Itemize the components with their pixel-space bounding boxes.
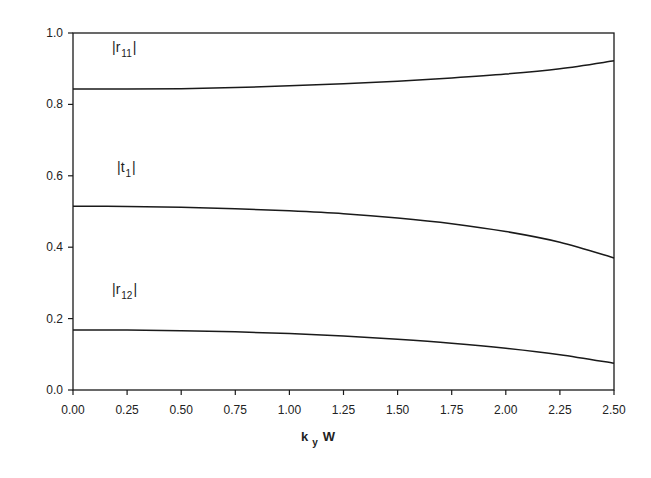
y-axis: 0.00.20.40.60.81.0	[46, 26, 73, 397]
curve-r11	[73, 61, 614, 89]
x-tick-label: 2.25	[548, 403, 572, 417]
x-tick-label: 1.50	[386, 403, 410, 417]
y-tick-label: 0.0	[46, 383, 63, 397]
x-tick-label: 2.50	[602, 403, 626, 417]
curve-label-t1: |t1|	[117, 159, 136, 179]
x-tick-label: 0.75	[224, 403, 248, 417]
x-tick-label: 1.25	[332, 403, 356, 417]
curve-t1	[73, 206, 614, 258]
x-tick-label: 2.00	[494, 403, 518, 417]
y-tick-label: 0.2	[46, 312, 63, 326]
y-tick-label: 0.4	[46, 240, 63, 254]
curve-label-r11: |r11|	[112, 39, 136, 59]
x-tick-label: 0.25	[115, 403, 139, 417]
x-tick-label: 1.00	[278, 403, 302, 417]
x-tick-label: 1.75	[440, 403, 464, 417]
y-tick-label: 0.8	[46, 97, 63, 111]
x-tick-label: 0.00	[61, 403, 85, 417]
data-curves	[73, 61, 614, 363]
x-tick-label: 0.50	[170, 403, 194, 417]
y-tick-label: 1.0	[46, 26, 63, 40]
curve-r12	[73, 330, 614, 363]
curve-labels: |r11||t1||r12|	[112, 39, 137, 301]
curve-label-r12: |r12|	[112, 281, 137, 301]
line-chart: 0.00.20.40.60.81.0 0.000.250.500.751.001…	[0, 0, 651, 478]
x-axis-label: kyW	[301, 429, 336, 448]
y-tick-label: 0.6	[46, 169, 63, 183]
x-axis: 0.000.250.500.751.001.251.501.752.002.25…	[61, 390, 626, 417]
